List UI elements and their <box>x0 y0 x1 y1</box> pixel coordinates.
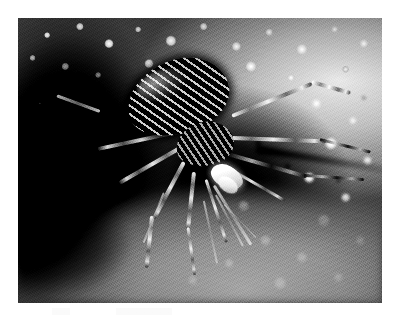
film-grain-layer <box>18 18 382 303</box>
sub-image-artifact-marks <box>52 308 192 315</box>
photograph <box>18 18 382 303</box>
page-root <box>0 0 399 322</box>
